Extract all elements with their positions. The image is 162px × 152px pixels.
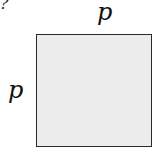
cut-off-punctuation-fragment: ? xyxy=(0,0,9,13)
left-side-label: p xyxy=(8,78,23,102)
top-side-label: p xyxy=(97,0,112,24)
square-shape xyxy=(36,34,152,147)
